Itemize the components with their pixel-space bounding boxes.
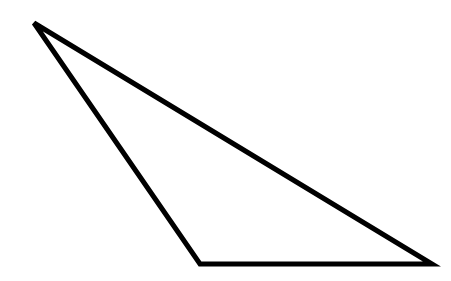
triangle-figure [0, 0, 451, 281]
obtuse-triangle [34, 23, 432, 264]
diagram-canvas [0, 0, 451, 281]
